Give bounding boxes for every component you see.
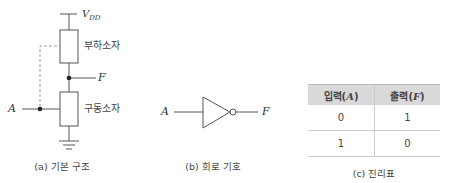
output-f-label: F [98,72,106,83]
inverter-triangle [203,97,230,128]
caption-basic-structure: (a) 기본 구조 [34,162,89,172]
output-node [67,76,72,81]
input-a-label: A [8,103,16,114]
truth-table: 입력(A) 출력(F) 0 1 1 0 [308,84,440,157]
inverter-output-f-label: F [262,106,270,117]
caption-truth-table: (c) 진리표 [353,169,396,179]
feedback-dashed-line [40,46,60,107]
driver-element-label: 구동소자 [84,104,120,114]
cell-output: 1 [375,105,440,131]
truth-table-header-row: 입력(A) 출력(F) [308,85,440,106]
header-output: 출력(F) [375,85,440,106]
input-node [38,107,43,112]
table-row: 0 1 [308,105,440,131]
caption-circuit-symbol: (b) 회로 기호 [185,162,240,172]
cell-input: 0 [308,105,375,131]
cell-output: 0 [375,131,440,157]
inverter-bubble [230,109,236,115]
table-row: 1 0 [308,131,440,157]
cell-input: 1 [308,131,375,157]
basic-structure-circuit [22,14,96,149]
inverter-symbol [174,97,258,128]
header-input: 입력(A) [308,85,375,106]
load-element-label: 부하소자 [84,41,120,51]
load-element-box [60,30,78,63]
driver-element-box [60,92,78,126]
vdd-label: VDD [82,9,100,22]
inverter-input-a-label: A [161,106,169,117]
